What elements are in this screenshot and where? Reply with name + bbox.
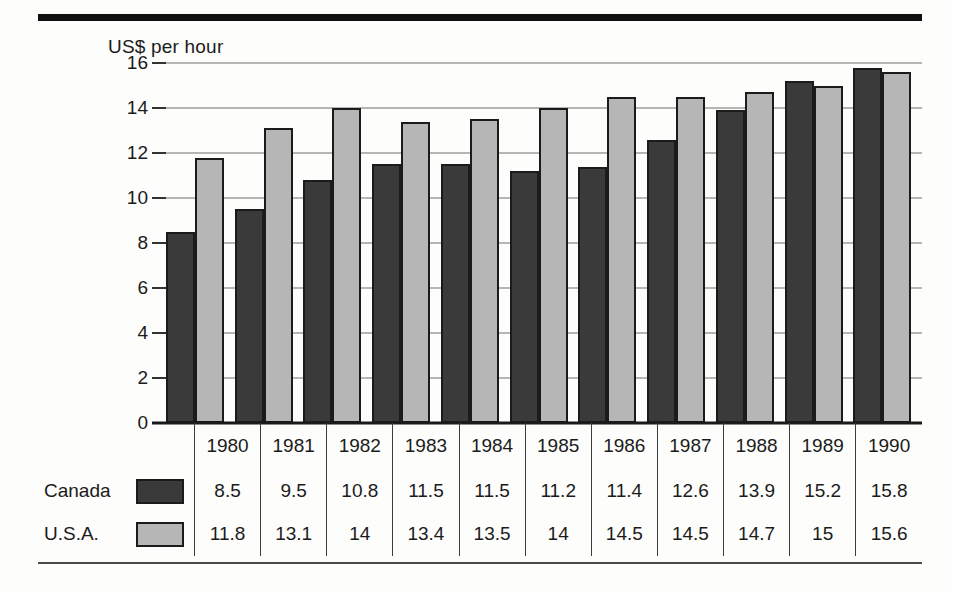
bar-usa-1988 xyxy=(745,92,774,423)
table-cell: 11.2 xyxy=(525,470,591,513)
table-row: U.S.A.11.813.11413.413.51414.514.514.715… xyxy=(38,513,922,556)
table-cell: 11.5 xyxy=(393,470,459,513)
table-cell: 13.1 xyxy=(261,513,327,556)
chart-page: US$ per hour 0246810121416 1980198119821… xyxy=(0,0,953,592)
table-cell: 9.5 xyxy=(261,470,327,513)
bar-group xyxy=(303,63,372,423)
data-table: 1980198119821983198419851986198719881989… xyxy=(38,423,922,556)
bar-canada-1980 xyxy=(166,232,195,423)
bar-canada-1983 xyxy=(372,164,401,423)
bar-usa-1980 xyxy=(195,158,224,424)
table-cell: 15.8 xyxy=(856,470,922,513)
bar-group xyxy=(441,63,510,423)
bar-canada-1982 xyxy=(303,180,332,423)
y-axis-tick-mark xyxy=(152,332,166,334)
bottom-divider-rule xyxy=(38,562,922,564)
bar-chart-plot: 0246810121416 xyxy=(108,63,922,423)
table-cell: 11.4 xyxy=(591,470,657,513)
bar-usa-1982 xyxy=(332,108,361,423)
table-column-header: 1981 xyxy=(261,423,327,470)
bar-canada-1990 xyxy=(853,68,882,424)
bar-usa-1985 xyxy=(539,108,568,423)
table-row: Canada8.59.510.811.511.511.211.412.613.9… xyxy=(38,470,922,513)
table-cell: 14.7 xyxy=(724,513,790,556)
table-column-header: 1984 xyxy=(459,423,525,470)
bar-canada-1985 xyxy=(510,171,539,423)
table-cell: 14.5 xyxy=(657,513,723,556)
y-axis-tick-mark xyxy=(152,107,166,109)
table-column-header: 1980 xyxy=(195,423,261,470)
table-cell: 14 xyxy=(327,513,393,556)
bar-canada-1988 xyxy=(716,110,745,423)
dark-swatch-icon xyxy=(136,479,184,504)
bar-canada-1984 xyxy=(441,164,470,423)
legend-label: Canada xyxy=(44,480,111,502)
legend-label: U.S.A. xyxy=(44,523,99,545)
table-cell: 14 xyxy=(525,513,591,556)
bar-group xyxy=(785,63,854,423)
y-axis-tick-mark xyxy=(152,287,166,289)
bar-usa-1981 xyxy=(264,128,293,423)
bar-group xyxy=(578,63,647,423)
table-column-header: 1985 xyxy=(525,423,591,470)
y-axis-tick-label: 6 xyxy=(137,277,148,299)
table-cell: 15.2 xyxy=(790,470,856,513)
table-row-label-cell: Canada xyxy=(38,470,195,513)
y-axis-tick-mark xyxy=(152,377,166,379)
table-cell: 11.5 xyxy=(459,470,525,513)
light-swatch-icon xyxy=(136,522,184,547)
y-axis-tick-mark xyxy=(152,62,166,64)
table-column-header: 1982 xyxy=(327,423,393,470)
bar-canada-1987 xyxy=(647,140,676,424)
table-column-header: 1990 xyxy=(856,423,922,470)
y-axis-tick-mark xyxy=(152,152,166,154)
table-cell: 13.4 xyxy=(393,513,459,556)
table-column-header: 1987 xyxy=(657,423,723,470)
bar-usa-1984 xyxy=(470,119,499,423)
y-axis-tick-label: 10 xyxy=(127,187,148,209)
bar-group xyxy=(372,63,441,423)
table-column-header: 1986 xyxy=(591,423,657,470)
bar-usa-1986 xyxy=(607,97,636,423)
table-cell: 14.5 xyxy=(591,513,657,556)
bar-usa-1989 xyxy=(814,86,843,424)
table-cell: 13.5 xyxy=(459,513,525,556)
y-axis-tick-label: 16 xyxy=(127,52,148,74)
table-body: 1980198119821983198419851986198719881989… xyxy=(38,423,922,556)
bar-canada-1981 xyxy=(235,209,264,423)
y-axis-tick-label: 12 xyxy=(127,142,148,164)
y-axis-tick-mark xyxy=(152,242,166,244)
table-column-header: 1983 xyxy=(393,423,459,470)
table-cell: 8.5 xyxy=(195,470,261,513)
table-header-row: 1980198119821983198419851986198719881989… xyxy=(38,423,922,470)
table-cell: 10.8 xyxy=(327,470,393,513)
table-corner-cell xyxy=(38,423,195,470)
y-axis-title: US$ per hour xyxy=(108,36,223,58)
bar-group xyxy=(166,63,235,423)
bar-canada-1986 xyxy=(578,167,607,424)
bar-group xyxy=(647,63,716,423)
y-axis-labels: 0246810121416 xyxy=(108,63,148,423)
top-divider-rule xyxy=(38,14,922,21)
y-axis-tick-label: 4 xyxy=(137,322,148,344)
table-column-header: 1988 xyxy=(724,423,790,470)
table-cell: 15.6 xyxy=(856,513,922,556)
bar-group xyxy=(510,63,579,423)
bar-usa-1983 xyxy=(401,122,430,424)
table-column-header: 1989 xyxy=(790,423,856,470)
bar-group xyxy=(716,63,785,423)
bar-canada-1989 xyxy=(785,81,814,423)
bar-usa-1987 xyxy=(676,97,705,423)
table-cell: 15 xyxy=(790,513,856,556)
y-axis-tick-label: 8 xyxy=(137,232,148,254)
bar-groups xyxy=(166,63,922,423)
bar-group xyxy=(235,63,304,423)
bar-group xyxy=(853,63,922,423)
bar-usa-1990 xyxy=(882,72,911,423)
y-axis-tick-label: 14 xyxy=(127,97,148,119)
table-cell: 12.6 xyxy=(657,470,723,513)
y-axis-tick-label: 2 xyxy=(137,367,148,389)
table-row-label-cell: U.S.A. xyxy=(38,513,195,556)
table-cell: 11.8 xyxy=(195,513,261,556)
table-cell: 13.9 xyxy=(724,470,790,513)
